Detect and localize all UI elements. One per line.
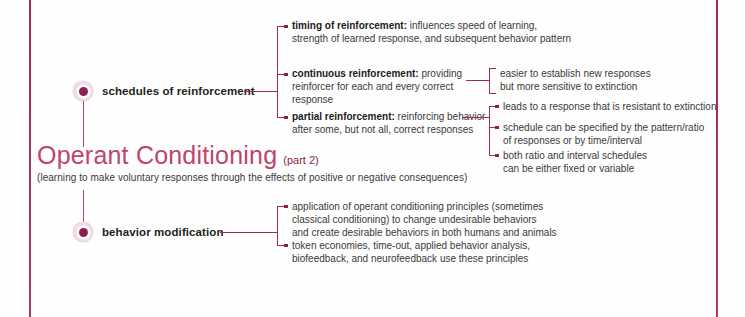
- bullet-partial-child1-icon: [495, 105, 499, 109]
- page-title: Operant Conditioning: [37, 143, 277, 168]
- connector-partial-out: [462, 117, 490, 118]
- node-bullet-icon: [73, 81, 93, 101]
- branch-line-2: classical conditioning) to change undesi…: [292, 213, 612, 226]
- page-title-part: (part 2): [283, 154, 318, 166]
- bullet-application-icon: [284, 205, 288, 209]
- child-line-1: both ratio and interval schedules: [503, 149, 718, 162]
- child-line-1: easier to establish new responses: [500, 67, 730, 80]
- page-title-block: Operant Conditioning(part 2) (learning t…: [37, 143, 467, 184]
- branch-lead: partial reinforcement:: [292, 111, 395, 122]
- page-left-rule: [29, 0, 31, 317]
- branch-partial-child-1: leads to a response that is resistant to…: [503, 100, 738, 113]
- branch-timing-of-reinforcement: timing of reinforcement: influences spee…: [292, 19, 592, 45]
- branch-line-2: reinforcer for each and every correct re…: [292, 80, 492, 106]
- connector-node1-out: [244, 91, 278, 92]
- child-line-2: can be either fixed or variable: [503, 162, 718, 175]
- bracket-continuous-child: [489, 68, 496, 94]
- branch-partial-child-3: both ratio and interval schedules can be…: [503, 149, 718, 175]
- branch-continuous-reinforcement: continuous reinforcement: providing rein…: [292, 67, 492, 107]
- bullet-continuous-icon: [284, 73, 288, 77]
- branch-rest: influences speed of learning,: [407, 20, 537, 31]
- connector-node2-spine: [277, 206, 278, 245]
- branch-rest: providing: [419, 68, 462, 79]
- branch-continuous-child: easier to establish new responses but mo…: [500, 67, 730, 93]
- branch-lead: timing of reinforcement:: [292, 20, 407, 31]
- branch-line-1: timing of reinforcement: influences spee…: [292, 19, 592, 32]
- child-line-1: schedule can be specified by the pattern…: [503, 121, 718, 134]
- bullet-timing-icon: [284, 25, 288, 29]
- branch-line-1: application of operant conditioning prin…: [292, 200, 612, 213]
- branch-line-1: continuous reinforcement: providing: [292, 67, 492, 80]
- node-label: behavior modification: [102, 226, 224, 238]
- node-bullet-icon: [73, 222, 93, 242]
- mindmap-page: schedules of reinforcement timing of rei…: [0, 0, 745, 317]
- branch-line-1: token economies, time-out, applied behav…: [292, 239, 612, 252]
- connector-node1-spine: [277, 26, 278, 117]
- branch-partial-child-2: schedule can be specified by the pattern…: [503, 121, 718, 147]
- bullet-partial-icon: [284, 116, 288, 120]
- branch-partial-reinforcement: partial reinforcement: reinforcing behav…: [292, 110, 492, 136]
- bullet-partial-child3-icon: [495, 154, 499, 158]
- node-label: schedules of reinforcement: [102, 85, 255, 97]
- connector-continuous-to-child: [466, 80, 490, 81]
- child-line-2: but more sensitive to extinction: [500, 80, 730, 93]
- connector-partial-spine: [489, 106, 490, 155]
- bullet-partial-child2-icon: [495, 126, 499, 130]
- branch-lead: continuous reinforcement:: [292, 68, 419, 79]
- page-subtitle: (learning to make voluntary responses th…: [37, 172, 467, 184]
- connector-node2-out: [220, 232, 277, 233]
- bullet-token-icon: [284, 244, 288, 248]
- branch-application-of-principles: application of operant conditioning prin…: [292, 200, 612, 240]
- child-line-1: leads to a response that is resistant to…: [503, 100, 738, 113]
- branch-line-2: strength of learned response, and subseq…: [292, 32, 592, 45]
- branch-line-2: after some, but not all, correct respons…: [292, 123, 492, 136]
- child-line-2: of responses or by time/interval: [503, 134, 718, 147]
- node-behavior-modification[interactable]: behavior modification: [73, 222, 224, 242]
- branch-line-3: and create desirable behaviors in both h…: [292, 226, 612, 239]
- branch-token-economies: token economies, time-out, applied behav…: [292, 239, 612, 265]
- branch-line-2: biofeedback, and neurofeedback use these…: [292, 252, 612, 265]
- node-schedules-of-reinforcement[interactable]: schedules of reinforcement: [73, 81, 255, 101]
